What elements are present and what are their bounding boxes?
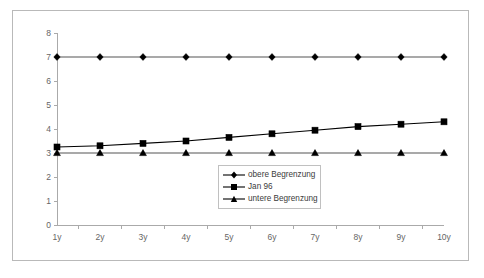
square-marker-icon — [222, 182, 246, 192]
x-tick-label: 7y — [311, 232, 321, 242]
x-tick-label: 3y — [139, 232, 149, 242]
diamond-data-marker — [97, 54, 103, 61]
square-data-marker — [183, 138, 189, 144]
x-tick-label: 5y — [225, 232, 235, 242]
y-tick-label: 5 — [46, 100, 51, 110]
x-tick-label: 10y — [437, 232, 451, 242]
square-data-marker — [269, 131, 275, 137]
legend-item-obere-begrenzung: obere Begrenzung — [222, 169, 316, 181]
diamond-data-marker — [140, 54, 146, 61]
square-data-marker — [398, 121, 404, 127]
legend-label: obere Begrenzung — [248, 170, 315, 180]
y-tick-label: 4 — [46, 124, 51, 134]
y-tick-label: 1 — [46, 196, 51, 206]
y-tick-label: 3 — [46, 148, 51, 158]
diamond-data-marker — [355, 54, 361, 61]
square-data-marker — [226, 134, 232, 140]
diamond-marker-icon — [222, 170, 246, 180]
chart-screenshot: 0123456781y2y3y4y5y6y7y8y9y10y obere Beg… — [0, 0, 484, 278]
diamond-data-marker — [312, 54, 318, 61]
square-data-marker — [312, 127, 318, 133]
x-tick-label: 9y — [397, 232, 407, 242]
series-line-1 — [57, 122, 444, 147]
y-tick-label: 8 — [46, 28, 51, 38]
y-tick-label: 7 — [46, 52, 51, 62]
legend-item-untere-begrenzung: untere Begrenzung — [222, 193, 316, 205]
diamond-data-marker — [226, 54, 232, 61]
x-tick-label: 4y — [182, 232, 192, 242]
diamond-data-marker — [441, 54, 447, 61]
y-tick-label: 6 — [46, 76, 51, 86]
x-tick-label: 1y — [53, 232, 63, 242]
triangle-marker-icon — [222, 194, 246, 204]
chart-legend: obere Begrenzung Jan 96 untere Begrenzun… — [218, 165, 321, 209]
legend-label: Jan 96 — [248, 182, 273, 192]
y-tick-label: 0 — [46, 220, 51, 230]
diamond-data-marker — [54, 54, 60, 61]
y-tick-label: 2 — [46, 172, 51, 182]
x-tick-label: 8y — [354, 232, 364, 242]
diamond-data-marker — [398, 54, 404, 61]
square-data-marker — [97, 143, 103, 149]
square-data-marker — [355, 124, 361, 130]
x-tick-label: 6y — [268, 232, 278, 242]
chart-canvas: 0123456781y2y3y4y5y6y7y8y9y10y — [0, 0, 484, 278]
diamond-data-marker — [269, 54, 275, 61]
legend-label: untere Begrenzung — [248, 194, 318, 204]
diamond-data-marker — [183, 54, 189, 61]
square-data-marker — [441, 119, 447, 125]
x-tick-label: 2y — [96, 232, 106, 242]
square-data-marker — [140, 140, 146, 146]
line-chart-plot-area: 0123456781y2y3y4y5y6y7y8y9y10y — [0, 0, 484, 278]
legend-item-jan-96: Jan 96 — [222, 181, 316, 193]
